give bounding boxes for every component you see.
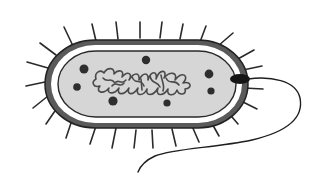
ribosome <box>80 65 89 74</box>
ribosome <box>142 56 150 64</box>
ribosome <box>108 96 117 105</box>
bacterium-illustration <box>0 0 332 188</box>
ribosome <box>205 70 214 79</box>
flagellum-base <box>230 74 250 84</box>
ribosome <box>207 87 214 94</box>
ribosome <box>73 83 81 91</box>
ribosome <box>163 99 170 106</box>
bacterium-diagram <box>0 0 332 188</box>
